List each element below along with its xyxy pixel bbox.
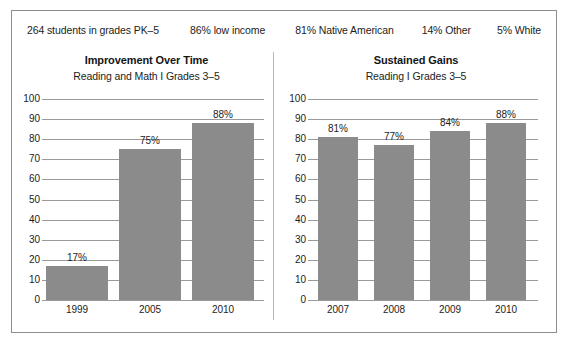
bars-left: 17%199975%200588%2010 bbox=[42, 99, 264, 300]
stat-white: 5% White bbox=[497, 24, 541, 36]
y-axis-tick-label: 90 bbox=[282, 114, 306, 124]
summary-stats-strip: 264 students in grades PK–5 86% low inco… bbox=[12, 20, 556, 40]
x-axis-tick-label: 2010 bbox=[176, 304, 270, 315]
bar-group: 75%2005 bbox=[119, 99, 181, 300]
y-axis-tick-label: 60 bbox=[16, 174, 40, 184]
y-axis-tick-label: 70 bbox=[16, 154, 40, 164]
y-axis-tick-label: 60 bbox=[282, 174, 306, 184]
bar[interactable] bbox=[374, 145, 414, 300]
y-axis-tick-label: 30 bbox=[282, 235, 306, 245]
bars-right: 81%200777%200884%200988%2010 bbox=[308, 99, 538, 300]
bar-value-label: 88% bbox=[474, 110, 538, 120]
chart-title-right: Sustained Gains bbox=[284, 54, 548, 66]
chart-panel-improvement-over-time: Improvement Over Time Reading and Math I… bbox=[20, 44, 273, 332]
bar-value-label: 88% bbox=[180, 110, 266, 120]
bar-value-label: 75% bbox=[107, 136, 193, 146]
bar-group: 77%2008 bbox=[374, 99, 414, 300]
y-axis-tick-label: 50 bbox=[282, 195, 306, 205]
chart-subtitle-right: Reading I Grades 3–5 bbox=[284, 70, 548, 82]
y-axis-tick-label: 70 bbox=[282, 154, 306, 164]
y-axis-tick-label: 10 bbox=[282, 275, 306, 285]
stat-other: 14% Other bbox=[422, 24, 471, 36]
y-axis-tick-label: 40 bbox=[16, 215, 40, 225]
bar[interactable] bbox=[318, 137, 358, 300]
bar-value-label: 84% bbox=[418, 118, 482, 128]
y-axis-tick-label: 10 bbox=[16, 275, 40, 285]
bar-group: 84%2009 bbox=[430, 99, 470, 300]
y-axis-tick-label: 30 bbox=[16, 235, 40, 245]
bar-group: 88%2010 bbox=[192, 99, 254, 300]
chart-subtitle-left: Reading and Math I Grades 3–5 bbox=[20, 70, 273, 82]
bar[interactable] bbox=[486, 123, 526, 300]
bar[interactable] bbox=[119, 149, 181, 300]
stat-enrollment: 264 students in grades PK–5 bbox=[27, 24, 159, 36]
y-axis-tick-label: 100 bbox=[16, 94, 40, 104]
stat-low-income: 86% low income bbox=[190, 24, 265, 36]
panel-divider bbox=[273, 52, 274, 320]
bar-group: 81%2007 bbox=[318, 99, 358, 300]
y-axis-tick-label: 90 bbox=[16, 114, 40, 124]
y-axis-tick-label: 80 bbox=[282, 134, 306, 144]
charts-container: Improvement Over Time Reading and Math I… bbox=[12, 44, 556, 332]
y-axis-tick-label: 20 bbox=[282, 255, 306, 265]
bar-group: 17%1999 bbox=[46, 99, 108, 300]
chart-panel-sustained-gains: Sustained Gains Reading I Grades 3–5 010… bbox=[284, 44, 548, 332]
bar-value-label: 81% bbox=[306, 124, 370, 134]
x-axis-tick-label: 2010 bbox=[470, 304, 542, 315]
y-axis-tick-label: 50 bbox=[16, 195, 40, 205]
y-axis-tick-label: 100 bbox=[282, 94, 306, 104]
x-axis-baseline bbox=[42, 300, 264, 301]
figure-frame: 264 students in grades PK–5 86% low inco… bbox=[11, 10, 557, 333]
stat-native-american: 81% Native American bbox=[295, 24, 393, 36]
y-axis-tick-label: 40 bbox=[282, 215, 306, 225]
bar-value-label: 17% bbox=[34, 253, 120, 263]
plot-area-right: 0102030405060708090100 81%200777%200884%… bbox=[308, 99, 538, 319]
bar-value-label: 77% bbox=[362, 132, 426, 142]
y-axis-tick-label: 80 bbox=[16, 134, 40, 144]
bar[interactable] bbox=[46, 266, 108, 300]
bar-group: 88%2010 bbox=[486, 99, 526, 300]
x-axis-baseline bbox=[308, 300, 538, 301]
bar[interactable] bbox=[430, 131, 470, 300]
plot-area-left: 0102030405060708090100 17%199975%200588%… bbox=[42, 99, 264, 319]
bar[interactable] bbox=[192, 123, 254, 300]
chart-title-left: Improvement Over Time bbox=[20, 54, 273, 66]
